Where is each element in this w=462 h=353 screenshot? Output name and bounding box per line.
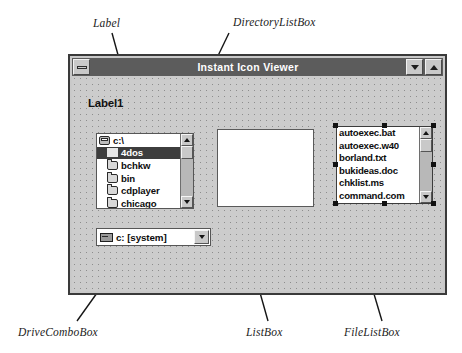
minimize-bar-icon bbox=[77, 66, 87, 69]
folder-icon bbox=[107, 199, 118, 208]
list-item[interactable]: command.com bbox=[337, 190, 419, 203]
form-client-area[interactable]: Label1 c:\ 4dos bchkw bin bbox=[72, 76, 443, 291]
window-title: Instant Icon Viewer bbox=[91, 58, 405, 76]
scroll-up-arrow-icon[interactable] bbox=[181, 134, 193, 146]
arrow-up-icon bbox=[430, 65, 438, 70]
list-item[interactable]: bukideas.doc bbox=[337, 165, 419, 178]
list-item[interactable]: chklist.ms bbox=[337, 177, 419, 190]
drive-combo-face[interactable]: c: [system] bbox=[97, 229, 193, 245]
scrollbar-thumb[interactable] bbox=[181, 146, 193, 159]
system-menu-button[interactable] bbox=[73, 59, 90, 75]
list-item-label: bin bbox=[121, 173, 135, 184]
form-window: Instant Icon Viewer Label1 c:\ 4dos bbox=[68, 54, 447, 295]
resize-handle-nw[interactable] bbox=[333, 123, 338, 128]
resize-handle-w[interactable] bbox=[333, 162, 338, 167]
arrow-down-icon bbox=[411, 65, 419, 70]
file-list-box[interactable]: autoexec.bat autoexec.w40 borland.txt bu… bbox=[336, 126, 433, 204]
scroll-up-arrow-icon[interactable] bbox=[420, 127, 432, 139]
scroll-down-arrow-icon[interactable] bbox=[181, 196, 193, 208]
drive-icon bbox=[100, 233, 113, 242]
scrollbar-thumb[interactable] bbox=[420, 139, 432, 152]
directory-list-items: c:\ 4dos bchkw bin cdplayer bbox=[97, 134, 180, 208]
folder-icon bbox=[107, 148, 118, 157]
resize-handle-sw[interactable] bbox=[333, 201, 338, 206]
drive-combo-box[interactable]: c: [system] bbox=[96, 228, 211, 246]
chevron-down-icon[interactable] bbox=[194, 230, 209, 244]
directory-list-scrollbar[interactable] bbox=[180, 134, 193, 208]
scrollbar-track[interactable] bbox=[181, 146, 193, 196]
list-item-label: chicago bbox=[121, 198, 157, 208]
resize-handle-n[interactable] bbox=[382, 123, 387, 128]
minimize-button[interactable] bbox=[406, 59, 423, 75]
maximize-button[interactable] bbox=[425, 59, 442, 75]
list-box[interactable] bbox=[217, 129, 314, 207]
folder-icon bbox=[107, 186, 118, 195]
list-item[interactable]: cdplayer bbox=[97, 184, 180, 197]
file-list-items: autoexec.bat autoexec.w40 borland.txt bu… bbox=[337, 127, 419, 203]
drive-combo-value: c: [system] bbox=[116, 232, 167, 243]
folder-open-icon bbox=[99, 136, 110, 145]
resize-handle-e[interactable] bbox=[431, 162, 436, 167]
resize-handle-ne[interactable] bbox=[431, 123, 436, 128]
list-item-label: 4dos bbox=[121, 147, 143, 158]
resize-handle-se[interactable] bbox=[431, 201, 436, 206]
window-controls bbox=[405, 58, 443, 76]
resize-handle-s[interactable] bbox=[382, 201, 387, 206]
list-item[interactable]: c:\ bbox=[97, 134, 180, 147]
list-item-label: c:\ bbox=[113, 135, 124, 146]
list-item[interactable]: bin bbox=[97, 172, 180, 185]
directory-list-box[interactable]: c:\ 4dos bchkw bin cdplayer bbox=[96, 133, 194, 209]
list-item[interactable]: 4dos bbox=[97, 147, 180, 160]
folder-icon bbox=[107, 161, 118, 170]
list-item[interactable]: chicago bbox=[97, 197, 180, 208]
list-item[interactable]: autoexec.w40 bbox=[337, 140, 419, 153]
label1[interactable]: Label1 bbox=[88, 97, 123, 109]
list-item-label: cdplayer bbox=[121, 185, 160, 196]
title-bar[interactable]: Instant Icon Viewer bbox=[72, 58, 443, 76]
folder-icon bbox=[107, 174, 118, 183]
list-item[interactable]: borland.txt bbox=[337, 152, 419, 165]
list-item-label: bchkw bbox=[121, 160, 150, 171]
list-item[interactable]: bchkw bbox=[97, 159, 180, 172]
list-item[interactable]: autoexec.bat bbox=[337, 127, 419, 140]
